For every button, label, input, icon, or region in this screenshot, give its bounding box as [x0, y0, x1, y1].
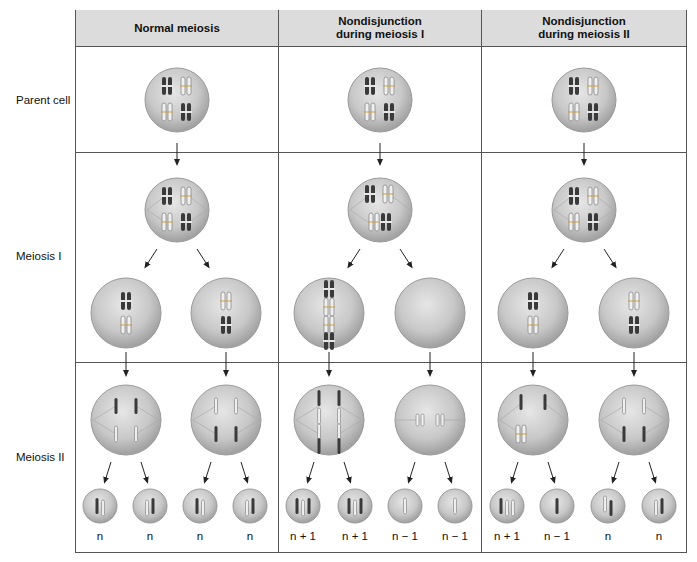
meiosis-diagram-graphics	[0, 0, 697, 562]
gamete-nd1-1	[286, 489, 320, 523]
ploidy-label: n − 1	[435, 530, 475, 542]
meiosis1-metaphase-nd2	[552, 178, 616, 242]
ploidy-label: n	[639, 530, 679, 542]
meiosis1-daughter-normal-1	[91, 278, 161, 348]
gamete-nd1-3	[388, 489, 422, 523]
ploidy-label: n − 1	[537, 530, 577, 542]
meiosis2-cell-nd1-1	[294, 385, 364, 455]
meiosis2-cell-normal-1	[91, 385, 161, 455]
ploidy-label: n	[80, 530, 120, 542]
meiosis1-daughter-nd2-1	[498, 278, 568, 348]
gamete-nd2-3	[591, 489, 625, 523]
ploidy-label: n	[180, 530, 220, 542]
ploidy-label: n − 1	[385, 530, 425, 542]
gamete-normal-2	[133, 489, 167, 523]
ploidy-label: n	[588, 530, 628, 542]
parent-cell-nd2	[552, 68, 616, 132]
gamete-nd2-1	[490, 489, 524, 523]
ploidy-label: n + 1	[487, 530, 527, 542]
ploidy-label: n	[130, 530, 170, 542]
gamete-normal-3	[183, 489, 217, 523]
ploidy-label: n	[230, 530, 270, 542]
meiosis2-cell-normal-2	[191, 385, 261, 455]
meiosis1-daughter-nd2-2	[599, 278, 669, 348]
gamete-nd2-2	[540, 489, 574, 523]
ploidy-label: n + 1	[335, 530, 375, 542]
meiosis1-daughter-normal-2	[191, 278, 261, 348]
meiosis1-metaphase-normal	[145, 178, 209, 242]
parent-cell-nd1	[348, 68, 412, 132]
meiosis2-cell-nd2-2	[599, 385, 669, 455]
gamete-nd1-2	[338, 489, 372, 523]
meiosis1-daughter-nd1-2	[395, 278, 465, 348]
ploidy-label: n + 1	[283, 530, 323, 542]
meiosis1-daughter-nd1-1	[294, 278, 364, 350]
gamete-nd2-4	[642, 489, 676, 523]
meiosis2-cell-nd1-2	[395, 385, 465, 455]
gamete-nd1-4	[438, 489, 472, 523]
meiosis2-cell-nd2-1	[498, 385, 568, 455]
gamete-normal-4	[233, 489, 267, 523]
meiosis1-metaphase-nd1	[348, 178, 412, 242]
parent-cell-normal	[145, 68, 209, 132]
gamete-normal-1	[83, 489, 117, 523]
